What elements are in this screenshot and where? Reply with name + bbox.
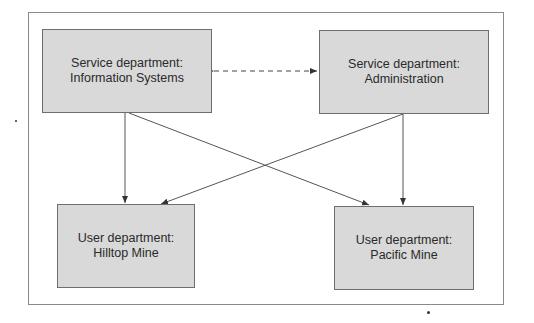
node-hilltop-mine: User department: Hilltop Mine xyxy=(57,204,195,288)
scan-speck xyxy=(427,311,430,314)
node-name-label: Hilltop Mine xyxy=(93,246,158,261)
scan-speck xyxy=(15,120,17,122)
node-pacific-mine: User department: Pacific Mine xyxy=(334,206,474,290)
node-type-label: User department: xyxy=(78,231,175,246)
node-type-label: User department: xyxy=(356,233,453,248)
node-type-label: Service department: xyxy=(71,56,183,71)
arrow-is-to-pacific xyxy=(129,113,369,205)
node-type-label: Service department: xyxy=(348,57,460,72)
node-information-systems: Service department: Information Systems xyxy=(42,29,212,113)
node-name-label: Pacific Mine xyxy=(370,248,437,263)
node-administration: Service department: Administration xyxy=(319,30,489,114)
arrow-admin-to-hilltop xyxy=(161,114,403,204)
node-name-label: Administration xyxy=(364,72,443,87)
node-name-label: Information Systems xyxy=(70,71,184,86)
